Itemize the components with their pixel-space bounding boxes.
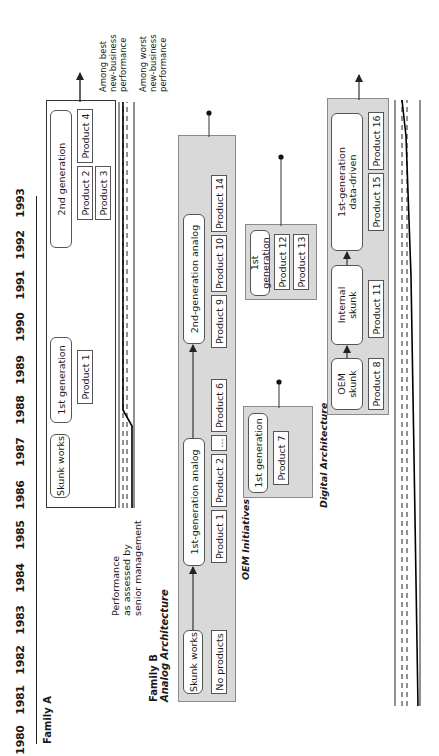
- connectors-overlay: [0, 0, 439, 756]
- analog-pin-dot: [206, 110, 211, 115]
- oem-pin-2-dot: [278, 154, 283, 159]
- family-a-performance-band: [119, 102, 134, 508]
- oem-pin-1-dot: [276, 379, 281, 384]
- family-b-performance-line: [402, 100, 418, 706]
- rotated-figure: 1980 1981 1982 1983 1984 1985 1986 1987 …: [0, 0, 439, 756]
- family-b-performance-band: [395, 100, 420, 706]
